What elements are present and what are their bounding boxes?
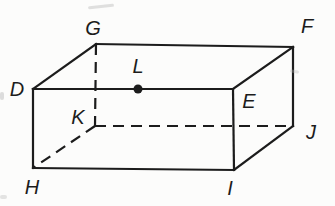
vertex-label-H: H	[25, 176, 40, 198]
edge-GK-dashed	[95, 44, 96, 126]
edge-FG-solid	[96, 44, 293, 47]
vertex-label-F: F	[301, 15, 315, 37]
point-L-dot	[134, 85, 143, 94]
vertex-label-G: G	[85, 17, 101, 39]
vertex-label-J: J	[305, 121, 317, 143]
point-label-L: L	[132, 55, 143, 77]
edge-IJ-solid	[234, 126, 293, 170]
edge-EI-solid	[233, 89, 234, 170]
prism-diagram: DEFGHIJKL	[0, 0, 335, 206]
diagram-canvas: DEFGHIJKL	[0, 0, 335, 206]
edge-GD-solid	[33, 44, 96, 89]
edge-EF-solid	[233, 47, 293, 89]
edge-KH-dashed	[33, 126, 95, 168]
vertex-label-K: K	[71, 106, 86, 128]
vertex-label-E: E	[242, 90, 256, 112]
edge-HI-solid	[33, 168, 234, 170]
vertex-label-I: I	[227, 177, 233, 199]
vertex-label-D: D	[10, 78, 24, 100]
